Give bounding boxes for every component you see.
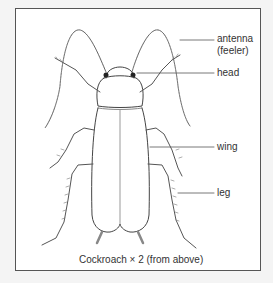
antenna-icon	[45, 30, 190, 128]
label-leg: leg	[217, 187, 230, 199]
leg-icon	[42, 55, 196, 248]
label-wing: wing	[217, 141, 238, 153]
label-antenna: antenna	[217, 33, 253, 45]
label-antenna-feeler: (feeler)	[217, 45, 249, 57]
pronotum-shape	[97, 76, 143, 108]
label-head: head	[217, 67, 239, 79]
figure-caption: Cockroach × 2 (from above)	[79, 254, 203, 265]
